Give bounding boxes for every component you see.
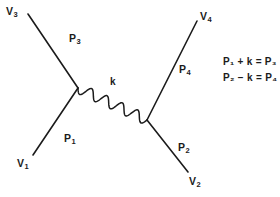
momentum-label-p3: P3 <box>69 33 81 44</box>
momentum-label-p4: P4 <box>179 64 191 75</box>
momentum-label-k: k <box>110 77 116 87</box>
feynman-diagram-canvas: V3 V1 V4 V2 P3 P1 P4 P2 k P₁ + k = P₃ P₂… <box>0 0 280 197</box>
vertex-label-v1: V1 <box>17 158 29 169</box>
momentum-label-p1: P1 <box>64 133 76 144</box>
vertex-label-v4: V4 <box>200 11 212 22</box>
momentum-label-p2: P2 <box>178 142 190 153</box>
external-line-v3 <box>28 14 78 88</box>
photon-propagator <box>78 88 147 123</box>
external-lines-group <box>28 14 197 172</box>
diagram-svg <box>0 0 280 197</box>
equation-2: P₂ − k = P₄ <box>223 73 277 83</box>
equation-1: P₁ + k = P₃ <box>223 57 277 67</box>
vertex-label-v2: V2 <box>189 176 201 187</box>
vertex-label-v3: V3 <box>6 6 18 17</box>
